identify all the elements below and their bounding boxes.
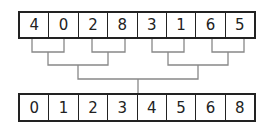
output-cell: 3 (108, 95, 137, 120)
output-array: 0 1 2 3 4 5 6 8 (18, 93, 256, 122)
output-cell: 8 (226, 95, 254, 120)
output-cell: 2 (79, 95, 108, 120)
output-cell: 6 (196, 95, 225, 120)
output-cell: 4 (138, 95, 167, 120)
output-cell: 1 (49, 95, 78, 120)
output-cell: 0 (20, 95, 49, 120)
output-cell: 5 (167, 95, 196, 120)
